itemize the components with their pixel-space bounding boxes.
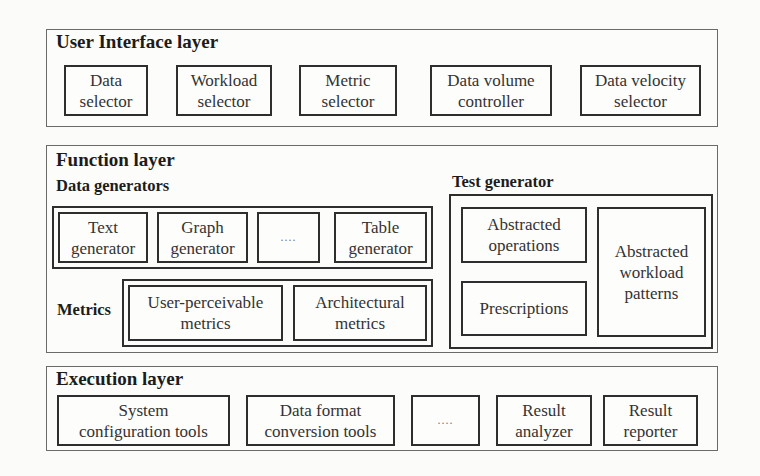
ui-layer-title: User Interface layer [56, 31, 218, 53]
data-volume-controller-box: Data volume controller [430, 65, 552, 116]
function-layer-title: Function layer [56, 149, 175, 171]
test-generator-title: Test generator [452, 172, 554, 192]
result-reporter-box: Result reporter [603, 395, 698, 446]
result-analyzer-box: Result analyzer [496, 395, 592, 446]
data-velocity-selector-box: Data velocity selector [580, 65, 701, 116]
abstracted-workload-patterns-box: Abstracted workload patterns [597, 207, 706, 337]
metric-selector-box: Metric selector [299, 65, 397, 116]
more-generators-ellipsis: .... [257, 212, 320, 263]
table-generator-box: Table generator [334, 212, 427, 263]
data-format-conversion-tools-box: Data format conversion tools [246, 395, 395, 446]
abstracted-operations-box: Abstracted operations [461, 207, 587, 263]
architectural-metrics-box: Architectural metrics [293, 285, 427, 341]
more-tools-ellipsis: .... [411, 395, 480, 446]
metrics-title: Metrics [57, 300, 111, 320]
text-generator-box: Text generator [58, 212, 148, 263]
workload-selector-box: Workload selector [176, 65, 272, 116]
graph-generator-box: Graph generator [157, 212, 248, 263]
user-perceivable-metrics-box: User-perceivable metrics [128, 285, 283, 341]
prescriptions-box: Prescriptions [461, 281, 587, 336]
execution-layer-title: Execution layer [56, 368, 183, 390]
system-configuration-tools-box: System configuration tools [57, 395, 230, 446]
data-generators-title: Data generators [56, 176, 169, 196]
data-selector-box: Data selector [64, 65, 148, 116]
